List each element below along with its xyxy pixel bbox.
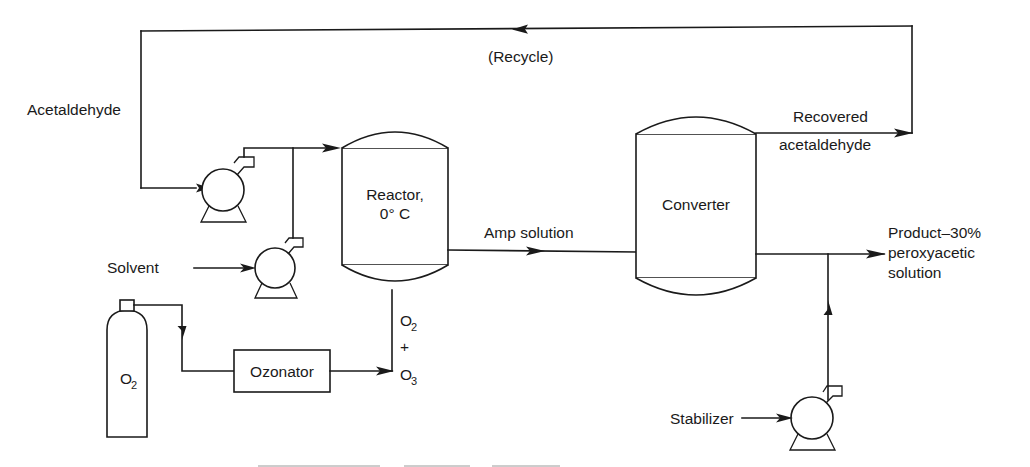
recycle-label: (Recycle)	[488, 48, 553, 65]
stabilizer-label: Stabilizer	[670, 410, 734, 427]
pump-discharge-nozzle	[234, 157, 254, 175]
reactor-label-line1: Reactor,	[366, 186, 424, 203]
ozonator-label: Ozonator	[250, 363, 314, 380]
solvent-pump-body-circle	[255, 248, 295, 288]
product-label-line1: Product–30%	[888, 224, 981, 241]
ozone-to-reactor-stream: O 2 + O 3	[330, 290, 417, 387]
process-flow-diagram: Reactor, 0° C O 2 Ozonator O 2	[0, 0, 1030, 467]
solvent-pump	[194, 148, 303, 298]
ozone-mix-label-plus: +	[400, 338, 409, 355]
stabilizer-pump-body-circle	[791, 397, 833, 439]
stabilizer-pump-discharge-nozzle	[823, 386, 842, 403]
solvent-feed-label: Solvent	[107, 259, 159, 276]
oxygen-to-ozonator-stream	[134, 305, 234, 371]
amp-solution-stream: Amp solution	[448, 224, 636, 256]
converter-label: Converter	[662, 196, 730, 213]
stabilizer-pump: Stabilizer	[670, 386, 842, 450]
ozonator: Ozonator	[234, 350, 330, 392]
recovered-acetaldehyde-stream: Recovered acetaldehyde	[756, 108, 913, 153]
product-label-line2: peroxyacetic	[888, 244, 975, 261]
oxygen-cylinder-valve	[120, 300, 134, 311]
product-label-line3: solution	[888, 264, 941, 281]
product-stream: Product–30% peroxyacetic solution	[756, 224, 981, 281]
reactor-bottom-head	[342, 265, 448, 281]
acetaldehyde-discharge-line	[244, 148, 336, 157]
acetaldehyde-feed-label: Acetaldehyde	[27, 101, 121, 118]
oxygen-cylinder: O 2	[107, 300, 147, 437]
acetaldehyde-pump	[201, 144, 341, 223]
amp-solution-label: Amp solution	[484, 224, 574, 241]
ozone-mix-label-o2-subscript: 2	[411, 321, 417, 333]
reactor-top-head	[342, 132, 448, 148]
converter-bottom-head	[636, 278, 756, 295]
oxygen-cylinder-label-subscript: 2	[131, 379, 137, 391]
converter-top-head	[636, 117, 756, 134]
ozone-mix-label-o3-subscript: 3	[411, 375, 417, 387]
reactor-vessel: Reactor, 0° C	[342, 132, 448, 281]
oxygen-supply-line	[134, 305, 234, 371]
recovered-label-line1: Recovered	[793, 108, 868, 125]
arrowhead-oxygen-downward	[178, 326, 187, 340]
recovered-label-line2: acetaldehyde	[779, 136, 871, 153]
pump-body-circle	[202, 169, 244, 211]
reactor-label-line2: 0° C	[380, 205, 410, 222]
arrowhead-stabilizer-upward	[824, 300, 833, 315]
converter-vessel: Converter	[636, 117, 756, 295]
stabilizer-injection-stream	[824, 254, 833, 400]
flowsheet-canvas: Reactor, 0° C O 2 Ozonator O 2	[0, 0, 1030, 467]
